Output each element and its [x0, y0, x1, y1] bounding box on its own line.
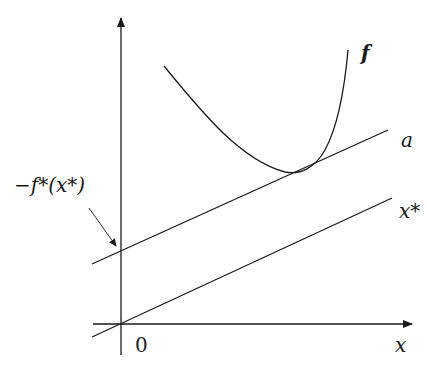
tangent-line-a: [92, 130, 388, 264]
label-x-star: x*: [399, 199, 420, 223]
label-origin-zero: 0: [135, 333, 148, 357]
label-x-axis: x: [395, 333, 406, 357]
label-a: a: [401, 128, 413, 152]
label-neg-f-star: −f*(x*): [14, 173, 85, 197]
intercept-pointer-arrow: [89, 208, 116, 246]
line-x-star: [92, 198, 392, 337]
conjugate-diagram: f a x* −f*(x*) 0 x: [0, 0, 427, 382]
function-curve-f: [164, 50, 348, 173]
label-f: f: [359, 41, 373, 65]
